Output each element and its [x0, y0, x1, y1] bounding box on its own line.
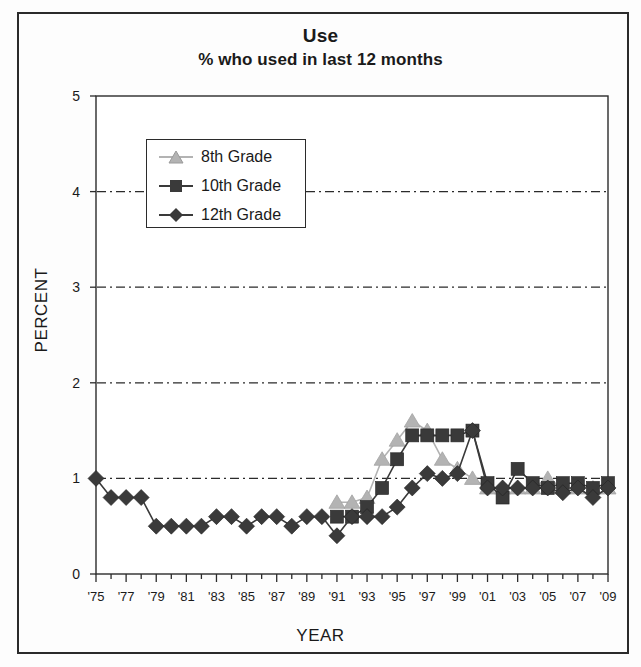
x-tick-label: '99	[440, 590, 474, 603]
x-tick-label: '77	[109, 590, 143, 603]
y-tick-label: 5	[50, 89, 80, 103]
x-tick-label: '07	[561, 590, 595, 603]
plot-area-wrapper: PERCENT YEAR 012345 '75'77'79'81'83'85'8…	[0, 0, 641, 667]
y-tick-label: 3	[50, 280, 80, 294]
legend-item-10th-grade: 10th Grade	[147, 173, 305, 198]
legend-label-8th-grade: 8th Grade	[193, 148, 272, 166]
x-axis-title: YEAR	[0, 626, 641, 646]
triangle-marker-icon	[159, 148, 193, 166]
x-tick-label: '75	[79, 590, 113, 603]
y-tick-label: 2	[50, 376, 80, 390]
x-tick-label: '03	[501, 590, 535, 603]
diamond-marker-icon	[159, 206, 193, 224]
x-tick-label: '95	[380, 590, 414, 603]
x-tick-label: '89	[290, 590, 324, 603]
y-tick-label: 4	[50, 185, 80, 199]
y-tick-label: 1	[50, 471, 80, 485]
y-axis-title: PERCENT	[32, 230, 52, 390]
legend-item-8th-grade: 8th Grade	[147, 144, 305, 169]
x-tick-label: '81	[169, 590, 203, 603]
x-tick-label: '79	[139, 590, 173, 603]
legend-label-12th-grade: 12th Grade	[193, 206, 281, 224]
y-tick-label: 0	[50, 567, 80, 581]
x-tick-label: '93	[350, 590, 384, 603]
x-tick-label: '87	[260, 590, 294, 603]
square-marker-icon	[159, 177, 193, 195]
x-tick-label: '09	[591, 590, 625, 603]
chart-figure: Use % who used in last 12 months PERCENT…	[0, 0, 641, 667]
plot-svg	[0, 0, 641, 667]
legend-label-10th-grade: 10th Grade	[193, 177, 281, 195]
x-tick-label: '05	[531, 590, 565, 603]
x-tick-label: '85	[230, 590, 264, 603]
x-tick-label: '97	[410, 590, 444, 603]
x-tick-label: '91	[320, 590, 354, 603]
legend: 8th Grade 10th Grade	[146, 139, 306, 228]
x-tick-label: '83	[199, 590, 233, 603]
x-tick-label: '01	[471, 590, 505, 603]
legend-item-12th-grade: 12th Grade	[147, 202, 305, 227]
